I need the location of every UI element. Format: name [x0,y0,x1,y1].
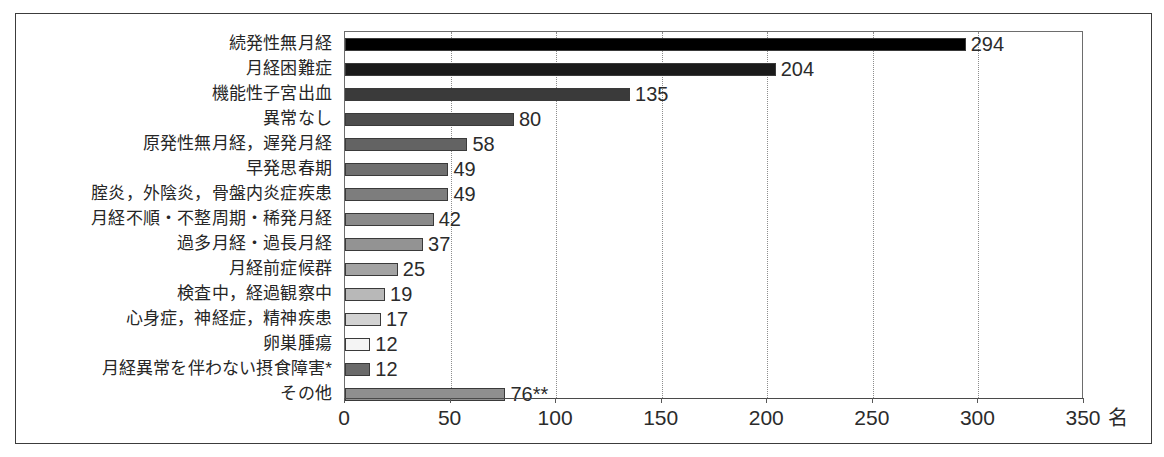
bar-value-label: 135 [632,83,668,106]
bar[interactable] [345,113,514,126]
bar-value-label: 42 [436,208,461,231]
bar-row: 19 [345,282,1082,307]
category-label: 早発思春期 [16,156,338,181]
bar-value-label: 294 [968,33,1004,56]
bar-row: 12 [345,357,1082,382]
x-axis-unit-label: 名 [1108,405,1128,431]
bar[interactable] [345,63,776,76]
bar-row: 42 [345,207,1082,232]
bar-value-label: 204 [778,58,814,81]
bar-value-label: 12 [372,333,397,356]
bar[interactable] [345,238,423,251]
bar-value-label: 37 [425,233,450,256]
bar-value-label: 80 [516,108,541,131]
bar-value-label: 17 [383,308,408,331]
bar[interactable] [345,138,467,151]
bar[interactable] [345,88,630,101]
x-tick-label: 0 [338,405,350,431]
x-tick-mark [1083,398,1084,403]
category-label-column: 続発性無月経月経困難症機能性子宮出血異常なし原発性無月経，遅発月経早発思春期腟炎… [16,31,338,406]
category-label: 原発性無月経，遅発月経 [16,131,338,156]
category-label: その他 [16,381,338,406]
bar-value-label: 58 [469,133,494,156]
category-label: 過多月経・過長月経 [16,231,338,256]
bar[interactable] [345,163,448,176]
x-tick-mark [661,398,662,403]
bar-row: 294 [345,32,1082,57]
bar[interactable] [345,263,398,276]
bar-value-label: 49 [450,183,475,206]
x-tick-mark [977,398,978,403]
bar-row: 76** [345,382,1082,407]
bar-row: 58 [345,132,1082,157]
bar[interactable] [345,188,448,201]
bar-row: 49 [345,182,1082,207]
category-label: 腟炎，外陰炎，骨盤内炎症疾患 [16,181,338,206]
bars-layer: 294204135805849494237251917121276** [345,32,1082,398]
bar-row: 37 [345,232,1082,257]
bar-row: 49 [345,157,1082,182]
category-label: 異常なし [16,106,338,131]
x-axis-line [344,398,1084,399]
bar-row: 17 [345,307,1082,332]
bar-row: 80 [345,107,1082,132]
x-tick-label: 100 [538,405,573,431]
category-label: 続発性無月経 [16,31,338,56]
bar[interactable] [345,38,966,51]
x-tick-mark [872,398,873,403]
category-label: 月経困難症 [16,56,338,81]
bar[interactable] [345,313,381,326]
category-label: 卵巣腫瘍 [16,331,338,356]
x-tick-mark [344,398,345,403]
horizontal-bar-chart: 続発性無月経月経困難症機能性子宮出血異常なし原発性無月経，遅発月経早発思春期腟炎… [16,14,1151,443]
bar-row: 135 [345,82,1082,107]
category-label: 月経前症候群 [16,256,338,281]
x-tick-label: 300 [960,405,995,431]
bar-row: 25 [345,257,1082,282]
x-tick-mark [555,398,556,403]
x-tick-label: 250 [854,405,889,431]
category-label: 機能性子宮出血 [16,81,338,106]
bar[interactable] [345,363,370,376]
category-label: 心身症，神経症，精神疾患 [16,306,338,331]
bar-value-label: 25 [400,258,425,281]
x-tick-label: 200 [749,405,784,431]
x-tick-label: 50 [438,405,461,431]
category-label: 月経不順・不整周期・稀発月経 [16,206,338,231]
bar-row: 12 [345,332,1082,357]
bar-value-label: 76** [507,383,548,406]
figure-frame: 続発性無月経月経困難症機能性子宮出血異常なし原発性無月経，遅発月経早発思春期腟炎… [15,13,1152,444]
category-label: 月経異常を伴わない摂食障害* [16,356,338,381]
bar[interactable] [345,338,370,351]
bar-row: 204 [345,57,1082,82]
bar-value-label: 12 [372,358,397,381]
x-tick-label: 150 [643,405,678,431]
bar-value-label: 49 [450,158,475,181]
x-tick-mark [766,398,767,403]
bar[interactable] [345,388,505,401]
plot-area: 294204135805849494237251917121276** [344,31,1083,398]
bar[interactable] [345,288,385,301]
bar-value-label: 19 [387,283,412,306]
x-tick-mark [450,398,451,403]
category-label: 検査中，経過観察中 [16,281,338,306]
bar[interactable] [345,213,434,226]
x-tick-label: 350 [1065,405,1100,431]
